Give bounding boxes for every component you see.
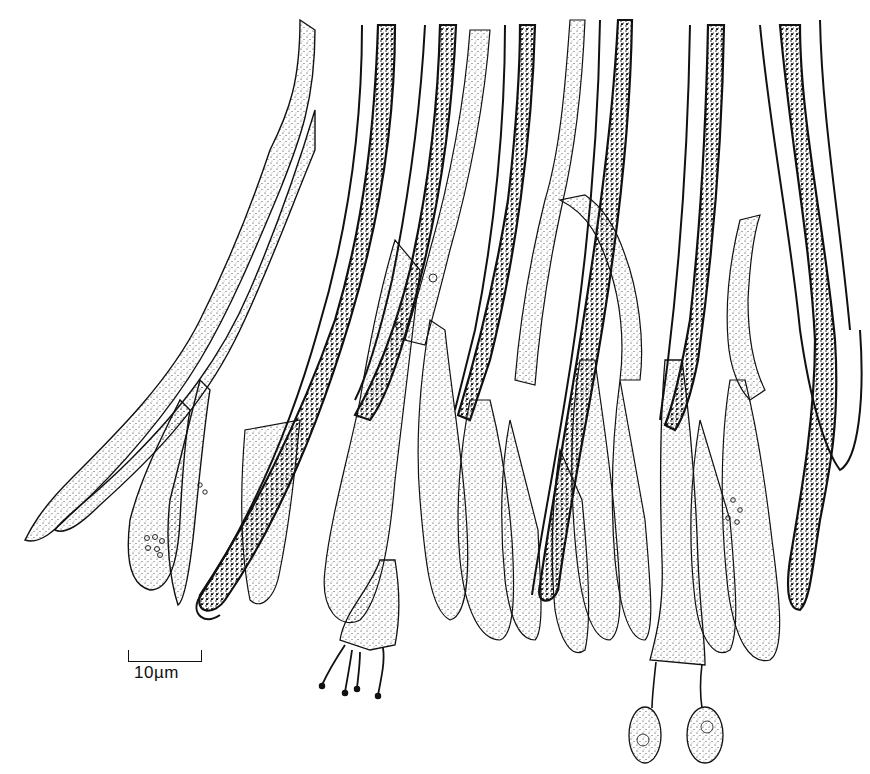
basidiospore (687, 707, 723, 763)
basidiospore (629, 707, 661, 763)
scale-bar-label: 10µm (134, 663, 179, 683)
scale-bar (128, 650, 202, 662)
